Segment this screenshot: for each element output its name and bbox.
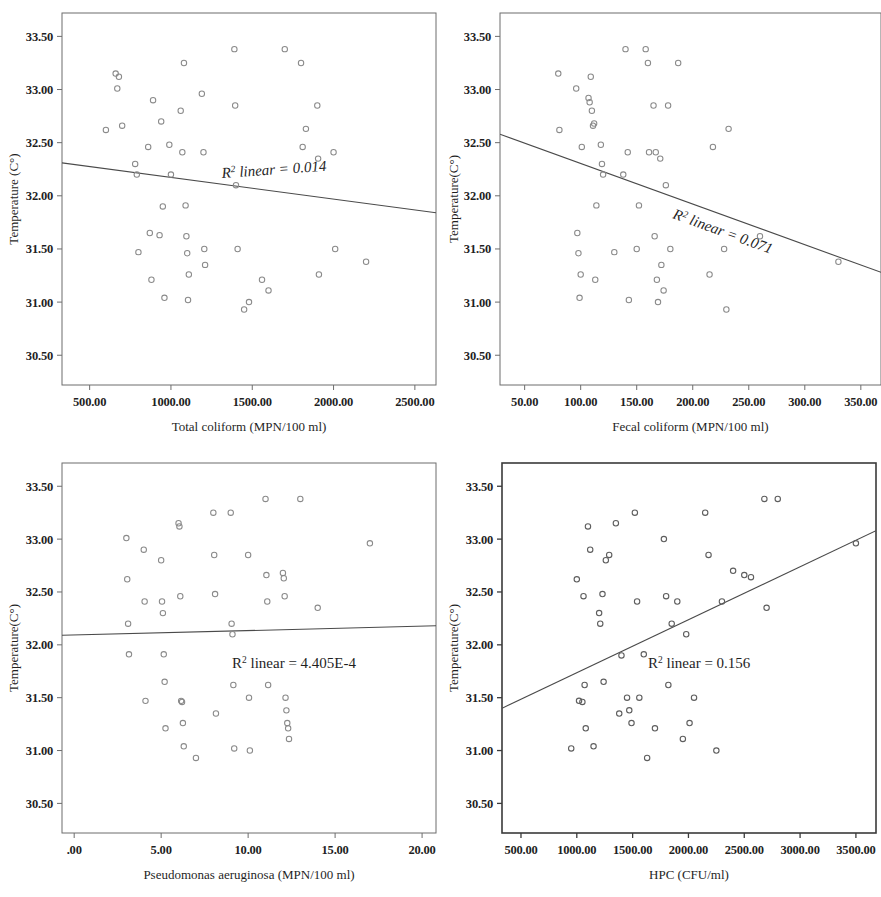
data-point	[599, 161, 604, 166]
y-tick-label: 31.50	[26, 691, 53, 705]
data-point	[160, 204, 165, 209]
y-tick-label: 33.50	[26, 30, 53, 44]
data-point	[241, 307, 246, 312]
x-axis-title: Fecal coliform (MPN/100 ml)	[612, 419, 768, 434]
data-point	[150, 97, 155, 102]
x-tick-label: 100.00	[564, 395, 597, 409]
data-point	[263, 496, 268, 501]
y-tick-label: 30.50	[466, 797, 493, 811]
data-point	[632, 510, 637, 515]
data-point	[593, 277, 598, 282]
y-axis-title: Temperature(C°)	[6, 604, 21, 692]
x-tick-label: 50.00	[511, 395, 538, 409]
r-squared-annotation: R2 linear = 0.014	[220, 158, 327, 181]
x-tick-label: 300.00	[788, 395, 821, 409]
y-tick-label: 32.50	[26, 585, 53, 599]
data-point	[598, 142, 603, 147]
data-point	[646, 150, 651, 155]
r-squared-annotation: R2 linear = 4.405E-4	[232, 655, 357, 671]
data-point	[259, 277, 264, 282]
data-point	[162, 295, 167, 300]
y-tick-label: 33.00	[26, 83, 53, 97]
data-point	[836, 259, 841, 264]
r-squared-annotation: R2 linear = 0.156	[648, 655, 751, 671]
data-point	[158, 558, 163, 563]
x-tick-label: 3500.00	[836, 843, 875, 857]
data-point	[125, 577, 130, 582]
data-point	[367, 541, 372, 546]
data-point	[116, 74, 121, 79]
data-point	[576, 698, 581, 703]
data-point	[853, 541, 858, 546]
data-point	[202, 246, 207, 251]
data-point	[578, 272, 583, 277]
data-point	[246, 299, 251, 304]
x-tick-label: 2000.00	[669, 843, 708, 857]
data-point	[167, 142, 172, 147]
data-point	[315, 605, 320, 610]
data-point	[246, 695, 251, 700]
data-point	[612, 249, 617, 254]
data-point	[661, 536, 666, 541]
x-tick-label: 250.00	[732, 395, 765, 409]
x-tick-label: 500.00	[504, 843, 537, 857]
data-point	[266, 288, 271, 293]
data-point	[229, 621, 234, 626]
plot-frame	[502, 463, 876, 833]
data-point	[666, 682, 671, 687]
data-point	[606, 552, 611, 557]
data-point	[730, 568, 735, 573]
x-tick-label: 1000.00	[557, 843, 596, 857]
data-point	[283, 695, 288, 700]
data-point	[626, 297, 631, 302]
data-point	[184, 234, 189, 239]
data-point	[286, 736, 291, 741]
data-point	[707, 272, 712, 277]
x-tick-label: 10.00	[235, 843, 262, 857]
y-tick-label: 30.50	[464, 349, 491, 363]
data-point	[574, 86, 579, 91]
data-point	[178, 594, 183, 599]
data-point	[186, 272, 191, 277]
data-point	[742, 572, 747, 577]
plot-frame	[62, 13, 436, 385]
data-point	[594, 203, 599, 208]
data-point	[315, 103, 320, 108]
data-point	[575, 230, 580, 235]
data-point	[180, 720, 185, 725]
data-point	[661, 288, 666, 293]
data-point	[113, 71, 118, 76]
panel-top-left-svg: 30.5031.0031.5032.0032.5033.0033.50500.0…	[0, 0, 441, 450]
data-point	[643, 46, 648, 51]
data-point	[637, 695, 642, 700]
x-axis-title: Total coliform (MPN/100 ml)	[172, 419, 327, 434]
data-point	[663, 594, 668, 599]
data-point	[625, 150, 630, 155]
data-point	[185, 297, 190, 302]
data-point	[233, 182, 238, 187]
data-point	[585, 524, 590, 529]
data-point	[211, 510, 216, 515]
data-point	[680, 736, 685, 741]
data-point	[669, 621, 674, 626]
data-point	[600, 172, 605, 177]
r-squared-annotation: R2 linear = 0.071	[670, 205, 775, 256]
panel-top-left: 30.5031.0031.5032.0032.5033.0033.50500.0…	[0, 0, 441, 450]
y-tick-label: 32.00	[466, 638, 493, 652]
x-tick-label: 2500.00	[725, 843, 764, 857]
plot-frame	[62, 463, 436, 833]
data-point	[281, 576, 286, 581]
data-point	[665, 103, 670, 108]
x-tick-label: .00	[67, 843, 82, 857]
data-point	[634, 246, 639, 251]
y-tick-label: 31.50	[464, 242, 491, 256]
data-point	[332, 246, 337, 251]
regression-line	[62, 626, 436, 636]
data-point	[180, 150, 185, 155]
y-tick-label: 31.50	[26, 242, 53, 256]
svg-text:R2 linear = 0.014: R2 linear = 0.014	[220, 158, 327, 181]
y-tick-label: 32.50	[26, 136, 53, 150]
data-point	[265, 682, 270, 687]
panel-bottom-left-svg: 30.5031.0031.5032.0032.5033.0033.50.005.…	[0, 450, 441, 897]
y-tick-label: 31.00	[26, 296, 53, 310]
